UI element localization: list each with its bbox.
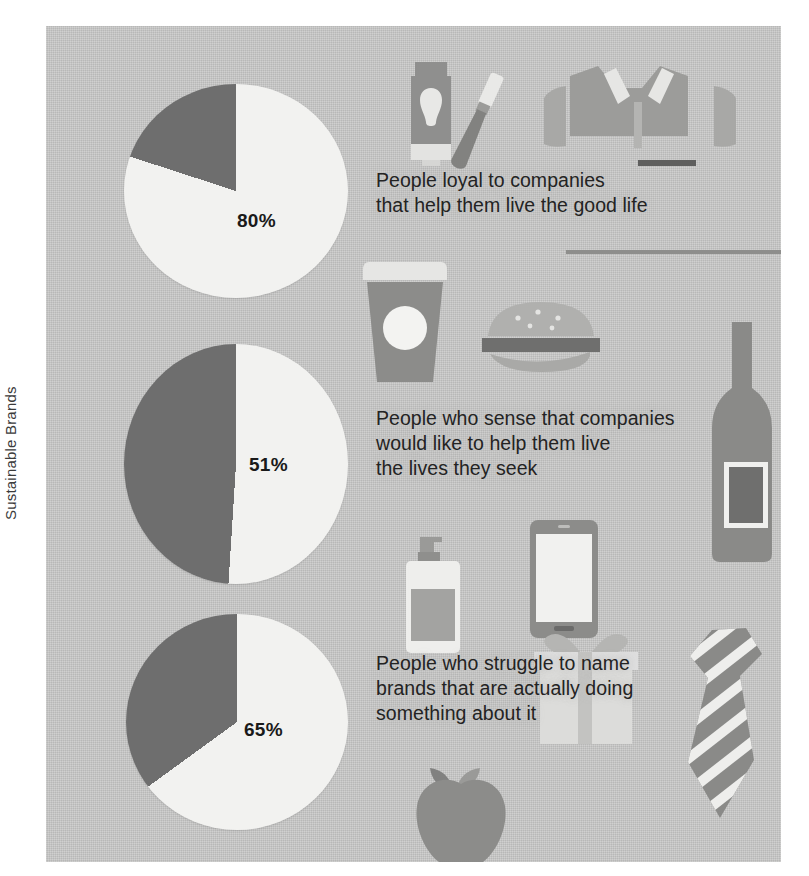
- pie-slices-65: [126, 614, 348, 830]
- statement-two-line3: the lives they seek: [376, 456, 721, 481]
- smartphone-icon: [526, 516, 602, 642]
- toothbrush-icon: [444, 66, 508, 182]
- statement-three-line2: brands that are actually doing: [376, 676, 721, 701]
- pie-value-51: 51%: [249, 454, 288, 476]
- statement-three-line1: People who struggle to name: [376, 651, 721, 676]
- pie-chart-80: 80%: [124, 84, 348, 298]
- credit-label: Sustainable Brands: [2, 280, 19, 520]
- statement-one: People loyal to companies that help them…: [376, 168, 706, 218]
- statement-three: People who struggle to name brands that …: [376, 651, 721, 726]
- statement-two-line1: People who sense that companies: [376, 406, 721, 431]
- statement-one-line2: that help them live the good life: [376, 193, 706, 218]
- pie-chart-51: 51%: [124, 344, 348, 584]
- statement-one-line1: People loyal to companies: [376, 168, 706, 193]
- pie-slices-80: [124, 84, 348, 298]
- pie-value-65: 65%: [244, 719, 283, 741]
- apple-icon: [406, 764, 516, 862]
- pie-chart-65: 65%: [126, 614, 348, 830]
- pie-slices-51: [124, 344, 348, 584]
- statement-two: People who sense that companies would li…: [376, 406, 721, 481]
- statement-two-line2: would like to help them live: [376, 431, 721, 456]
- statement-three-line3: something about it: [376, 701, 721, 726]
- infographic-panel: 80% 51% 65% People loyal to companies th…: [46, 26, 781, 862]
- coffee-cup-icon: [361, 256, 449, 396]
- soap-dispenser-icon: [394, 531, 476, 659]
- shirt-underline-icon: [566, 248, 781, 256]
- burger-icon: [476, 296, 606, 388]
- pie-value-80: 80%: [237, 210, 276, 232]
